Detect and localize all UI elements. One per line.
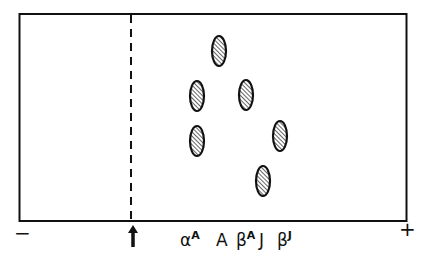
spots: [190, 36, 287, 196]
spot-5: [273, 121, 287, 151]
lane-labels: αA A βA J βJ: [180, 229, 292, 250]
lane-label-beta-j: βJ: [277, 229, 292, 250]
spot-6: [256, 166, 270, 196]
negative-pole-label: −: [14, 221, 31, 245]
lane-label-j: J: [258, 230, 264, 250]
spot-1: [212, 36, 226, 66]
lane-label-a: A: [216, 230, 228, 250]
gel-diagram: − + αA A βA J βJ: [0, 0, 427, 258]
lane-label-alpha-a: αA: [180, 229, 200, 250]
lane-label-beta-a: βA: [236, 229, 256, 250]
spot-3: [239, 80, 253, 110]
spot-4: [190, 126, 204, 156]
spot-2: [190, 81, 204, 111]
positive-pole-label: +: [399, 217, 416, 241]
origin-arrow-icon: [128, 225, 138, 247]
